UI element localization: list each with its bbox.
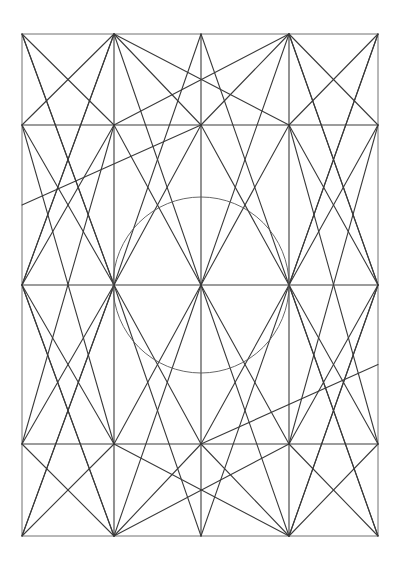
construction-line bbox=[201, 444, 289, 536]
construction-line bbox=[114, 34, 201, 125]
construction-line bbox=[114, 444, 201, 536]
construction-line bbox=[22, 125, 201, 205]
geometric-construction bbox=[0, 0, 398, 567]
construction-line bbox=[201, 34, 289, 125]
construction-lines bbox=[22, 34, 378, 536]
